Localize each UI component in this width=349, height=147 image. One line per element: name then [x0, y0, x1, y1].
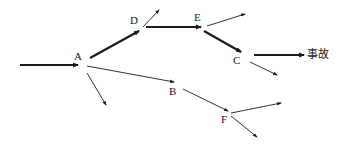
edge-A-to-D-arrow — [90, 31, 139, 58]
outcome-label-accident: 事故 — [307, 49, 329, 60]
edge-A-to-B-arrow — [87, 66, 174, 82]
edge-D-to-branch-arrow — [143, 10, 159, 27]
node-label-f: F — [221, 114, 227, 125]
edge-B-to-F-arrow — [183, 89, 228, 111]
node-label-d: D — [130, 15, 138, 26]
edge-C-to-branch-arrow — [250, 62, 277, 75]
edge-F-to-branch-arrow — [231, 116, 257, 137]
node-label-e: E — [194, 12, 201, 23]
event-tree-diagram: A D E C B F 事故 — [0, 0, 349, 147]
node-label-c: C — [233, 55, 240, 66]
edges-layer — [0, 0, 349, 147]
node-label-a: A — [74, 51, 82, 62]
edge-A-to-branch-arrow — [87, 73, 106, 105]
edge-F-to-branch-arrow — [231, 103, 281, 113]
node-label-b: B — [169, 86, 176, 97]
edge-E-to-branch-arrow — [207, 14, 245, 26]
edge-E-to-C-arrow — [204, 31, 241, 52]
